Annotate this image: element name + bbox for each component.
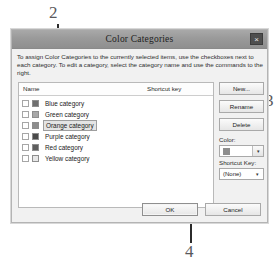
column-header-name: Name (23, 85, 40, 92)
table-row[interactable]: Blue category (19, 98, 213, 109)
screenshot-page: 2 3 4 Color Categories × To assign Color… (0, 0, 279, 266)
list-header: Name Shortcut key (19, 83, 213, 96)
category-checkbox[interactable] (22, 100, 29, 107)
category-name-label: Blue category (43, 99, 86, 108)
shortcut-key-label: Shortcut Key: (219, 159, 264, 167)
close-icon[interactable]: × (250, 33, 263, 45)
table-row[interactable]: Purple category (19, 131, 213, 142)
color-label: Color: (219, 136, 264, 144)
category-name-label: Purple category (43, 132, 92, 141)
category-color-swatch (32, 133, 39, 140)
shortcut-key-value: (None) (223, 170, 241, 179)
callout-leader-line-4 (190, 221, 192, 243)
category-color-swatch (32, 111, 39, 118)
cancel-button[interactable]: Cancel (205, 203, 261, 216)
table-row[interactable]: Red category (19, 142, 213, 153)
table-row[interactable]: Green category (19, 109, 213, 120)
callout-number-4: 4 (185, 243, 194, 260)
table-row[interactable]: Orange category (19, 120, 213, 131)
column-header-shortcut: Shortcut key (147, 85, 181, 92)
category-checkbox[interactable] (22, 144, 29, 151)
color-swatch (223, 148, 230, 155)
category-color-swatch (32, 155, 39, 162)
category-name-label: Yellow category (43, 154, 92, 163)
dialog-titlebar: Color Categories × (12, 30, 267, 49)
shortcut-key-dropdown[interactable]: (None) ▾ (219, 168, 264, 180)
category-name-label: Green category (43, 110, 91, 119)
category-checkbox[interactable] (22, 111, 29, 118)
instruction-text: To assign Color Categories to the curren… (17, 53, 263, 78)
color-categories-dialog: Color Categories × To assign Color Categ… (11, 29, 268, 223)
category-color-swatch (32, 100, 39, 107)
category-color-swatch (32, 122, 39, 129)
category-checkbox[interactable] (22, 122, 29, 129)
category-rows: Blue categoryGreen categoryOrange catego… (19, 96, 213, 164)
dialog-body: To assign Color Categories to the curren… (12, 49, 267, 222)
new-button[interactable]: New... (219, 82, 264, 95)
table-row[interactable]: Yellow category (19, 153, 213, 164)
callout-number-2: 2 (49, 4, 58, 21)
dialog-footer: OK Cancel (142, 203, 261, 216)
category-checkbox[interactable] (22, 133, 29, 140)
command-panel: New... Rename Delete Color: ▾ Shortcut K… (219, 82, 264, 182)
category-listbox[interactable]: Name Shortcut key Blue categoryGreen cat… (18, 82, 214, 208)
category-name-label: Red category (43, 143, 85, 152)
category-color-swatch (32, 144, 39, 151)
delete-button[interactable]: Delete (219, 118, 264, 131)
ok-button[interactable]: OK (142, 203, 198, 216)
chevron-down-icon[interactable]: ▾ (252, 146, 263, 156)
category-name-label: Orange category (43, 120, 97, 131)
category-checkbox[interactable] (22, 155, 29, 162)
rename-button[interactable]: Rename (219, 100, 264, 113)
chevron-down-icon[interactable]: ▾ (252, 169, 263, 179)
color-dropdown[interactable]: ▾ (219, 145, 264, 157)
dialog-title: Color Categories (12, 30, 267, 48)
